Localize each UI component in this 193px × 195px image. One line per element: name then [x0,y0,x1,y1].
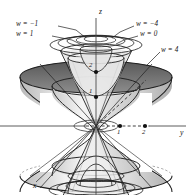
label-w-neg-1: w = −1 [16,21,38,28]
axis-label-x: x [33,182,36,190]
label-w-neg-4: w = −4 [136,21,158,28]
leader-w-pos-4 [146,52,160,66]
tick-y-1: 1 [117,129,120,136]
point-z-2 [94,70,98,74]
leader-w-neg-4 [112,26,134,38]
label-w-zero: w = 0 [140,31,157,38]
axis-label-z: z [99,8,102,16]
label-w-pos-4: w = 4 [161,47,178,54]
point-z-1 [94,95,98,99]
label-w-pos-1: w = 1 [16,31,33,38]
tick-z-2: 2 [89,62,92,69]
axis-label-y: y [180,129,183,137]
tick-z-1: 1 [89,88,92,95]
level-surfaces-figure: w = −1 w = 1 w = −4 w = 0 w = 4 z y x 1 … [0,0,193,195]
tick-y-2: 2 [142,129,145,136]
